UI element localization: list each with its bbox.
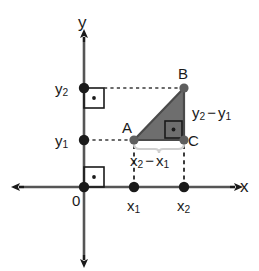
dot-y2 bbox=[79, 83, 89, 93]
y2-tick-base: y bbox=[55, 80, 63, 97]
y1-tick-sub: 1 bbox=[63, 139, 69, 150]
horizontal-leg-x1-sub: 1 bbox=[163, 159, 169, 170]
vertical-leg-operator: − bbox=[205, 104, 218, 121]
origin-label: 0 bbox=[72, 193, 80, 208]
x2-tick-label: x2 bbox=[177, 198, 190, 215]
x2-tick-base: x bbox=[177, 197, 185, 214]
y2-tick-sub: 2 bbox=[63, 87, 69, 98]
dot-origin bbox=[79, 182, 89, 192]
horizontal-leg-operator: − bbox=[143, 152, 156, 169]
dot-point-a bbox=[129, 135, 138, 144]
dot-point-b bbox=[179, 83, 188, 92]
x1-tick-base: x bbox=[127, 197, 135, 214]
vertical-leg-label: y2−y1 bbox=[192, 105, 231, 122]
horizontal-leg-x2-base: x bbox=[130, 152, 138, 169]
dot-x1 bbox=[129, 182, 139, 192]
x-axis-label: x bbox=[240, 178, 249, 195]
point-b-label: B bbox=[178, 66, 188, 81]
geometry-figure: y x 0 y2 y1 x1 x2 A B C y2−y1 x2−x1 bbox=[0, 0, 259, 271]
dot-y1 bbox=[79, 135, 89, 145]
dot-x2 bbox=[179, 182, 189, 192]
horizontal-leg-label: x2−x1 bbox=[130, 153, 169, 170]
y2-tick-label: y2 bbox=[55, 81, 68, 98]
triangle-abc bbox=[134, 88, 184, 140]
vertical-leg-y2-base: y bbox=[192, 104, 200, 121]
y1-tick-label: y1 bbox=[55, 133, 68, 150]
x2-tick-sub: 2 bbox=[185, 204, 191, 215]
x1-tick-label: x1 bbox=[127, 198, 140, 215]
point-a-label: A bbox=[122, 120, 132, 135]
vertical-leg-y1-sub: 1 bbox=[225, 111, 231, 122]
x1-tick-sub: 1 bbox=[135, 204, 141, 215]
point-c-label: C bbox=[188, 133, 199, 148]
y1-tick-base: y bbox=[55, 132, 63, 149]
y-axis-label: y bbox=[78, 14, 87, 31]
